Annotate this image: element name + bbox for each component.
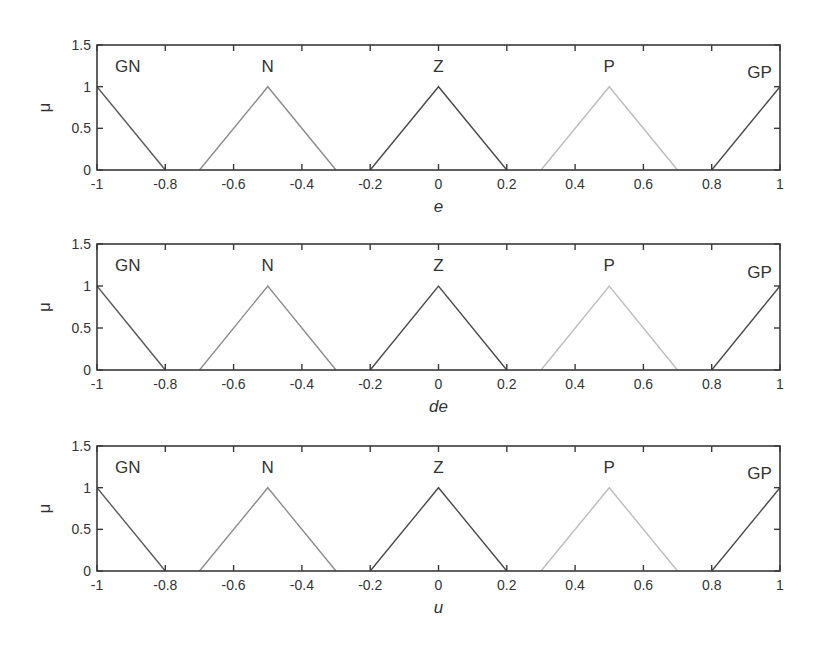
mf-label-gp: GP <box>747 263 772 282</box>
x-tick-label: 1 <box>776 577 784 593</box>
mf-label-gn: GN <box>115 256 141 275</box>
x-tick-label: -1 <box>91 376 104 392</box>
x-tick-label: -0.2 <box>358 376 382 392</box>
x-tick-label: 1 <box>776 176 784 192</box>
y-tick-label: 1.5 <box>72 438 92 454</box>
y-tick-label: 1 <box>83 278 91 294</box>
x-tick-label: 0.4 <box>565 176 585 192</box>
x-tick-label: -1 <box>91 176 104 192</box>
x-tick-label: 0.8 <box>702 376 722 392</box>
x-tick-label: 1 <box>776 376 784 392</box>
y-axis-label: μ <box>35 504 54 514</box>
mf-line-gp <box>712 87 780 170</box>
mf-label-z: Z <box>433 256 443 275</box>
mf-label-n: N <box>262 256 274 275</box>
y-axis-label: μ <box>35 103 54 113</box>
x-axis-label: u <box>434 598 444 617</box>
x-tick-label: -0.4 <box>290 176 314 192</box>
mf-line-gn <box>97 286 165 370</box>
y-tick-label: 0 <box>83 162 91 178</box>
y-tick-label: 0 <box>83 563 91 579</box>
subplot-de: GNNZPGP-1-0.8-0.6-0.4-0.200.20.40.60.810… <box>35 236 784 416</box>
x-tick-label: 0.6 <box>634 176 654 192</box>
x-tick-label: 0.6 <box>634 376 654 392</box>
x-tick-label: 0 <box>435 176 443 192</box>
x-tick-label: 0.8 <box>702 577 722 593</box>
subplot-u: GNNZPGP-1-0.8-0.6-0.4-0.200.20.40.60.810… <box>35 438 784 617</box>
x-tick-label: 0 <box>435 376 443 392</box>
x-tick-label: -0.2 <box>358 577 382 593</box>
x-tick-label: 0 <box>435 577 443 593</box>
mf-line-n <box>200 87 337 170</box>
mf-line-p <box>541 87 678 170</box>
figure-canvas: GNNZPGP-1-0.8-0.6-0.4-0.200.20.40.60.810… <box>0 0 817 653</box>
x-tick-label: 0.2 <box>497 376 517 392</box>
subplot-e: GNNZPGP-1-0.8-0.6-0.4-0.200.20.40.60.810… <box>35 37 784 216</box>
x-tick-label: -1 <box>91 577 104 593</box>
y-tick-label: 0 <box>83 362 91 378</box>
y-tick-label: 0.5 <box>72 120 92 136</box>
x-tick-label: 0.6 <box>634 577 654 593</box>
x-tick-label: -0.2 <box>358 176 382 192</box>
mf-line-gn <box>97 87 165 170</box>
y-tick-label: 1.5 <box>72 37 92 53</box>
mf-line-gp <box>712 488 780 571</box>
y-tick-label: 1.5 <box>72 236 92 252</box>
mf-label-n: N <box>262 57 274 76</box>
mf-label-p: P <box>604 458 615 477</box>
x-tick-label: 0.2 <box>497 176 517 192</box>
membership-functions-figure: GNNZPGP-1-0.8-0.6-0.4-0.200.20.40.60.810… <box>0 0 817 653</box>
y-tick-label: 1 <box>83 79 91 95</box>
x-tick-label: -0.8 <box>153 376 177 392</box>
y-tick-label: 0.5 <box>72 320 92 336</box>
x-axis-label: e <box>434 197 443 216</box>
mf-line-n <box>200 286 337 370</box>
mf-label-gn: GN <box>115 57 141 76</box>
mf-line-z <box>370 286 507 370</box>
x-tick-label: -0.4 <box>290 577 314 593</box>
x-tick-label: -0.6 <box>222 577 246 593</box>
x-axis-label: de <box>429 397 448 416</box>
x-tick-label: 0.2 <box>497 577 517 593</box>
mf-line-z <box>370 87 507 170</box>
mf-label-z: Z <box>433 458 443 477</box>
y-tick-label: 1 <box>83 480 91 496</box>
mf-line-p <box>541 286 678 370</box>
y-tick-label: 0.5 <box>72 521 92 537</box>
mf-label-p: P <box>604 57 615 76</box>
x-tick-label: -0.8 <box>153 176 177 192</box>
mf-line-n <box>200 488 337 571</box>
mf-line-p <box>541 488 678 571</box>
y-axis-label: μ <box>35 302 54 312</box>
x-tick-label: 0.4 <box>565 376 585 392</box>
mf-line-gp <box>712 286 780 370</box>
mf-label-gn: GN <box>115 458 141 477</box>
x-tick-label: 0.8 <box>702 176 722 192</box>
x-tick-label: -0.4 <box>290 376 314 392</box>
mf-line-gn <box>97 488 165 571</box>
mf-label-gp: GP <box>747 63 772 82</box>
x-tick-label: -0.6 <box>222 376 246 392</box>
mf-line-z <box>370 488 507 571</box>
mf-label-gp: GP <box>747 464 772 483</box>
mf-label-p: P <box>604 256 615 275</box>
mf-label-n: N <box>262 458 274 477</box>
mf-label-z: Z <box>433 57 443 76</box>
x-tick-label: -0.8 <box>153 577 177 593</box>
x-tick-label: -0.6 <box>222 176 246 192</box>
x-tick-label: 0.4 <box>565 577 585 593</box>
